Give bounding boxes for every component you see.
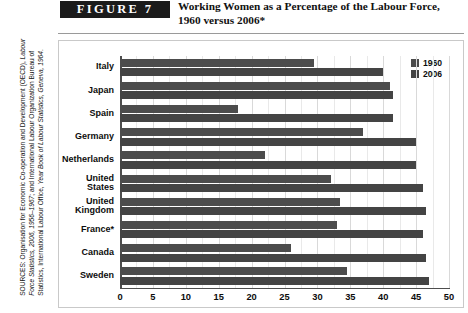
page-title: Working Women as a Percentage of the Lab… xyxy=(178,0,463,27)
category-label-line: Kingdom xyxy=(0,206,114,216)
bar-2006 xyxy=(120,91,393,99)
x-tick-label: 35 xyxy=(338,292,362,302)
category-label: France* xyxy=(0,225,114,235)
category-label: Sweden xyxy=(0,271,114,281)
plot-area: 05101520253035404550 xyxy=(120,56,450,288)
category-label-line: Sweden xyxy=(0,271,114,281)
bar-group xyxy=(120,198,450,218)
bar-group xyxy=(120,82,450,102)
x-tick-label: 5 xyxy=(141,292,165,302)
category-label-line: States xyxy=(0,183,114,193)
figure-number-banner: FIGURE 7 xyxy=(60,1,170,18)
category-label-line: Italy xyxy=(0,62,114,72)
x-tick-label: 40 xyxy=(371,292,395,302)
bar-1960 xyxy=(120,244,291,252)
x-tick-label: 30 xyxy=(305,292,329,302)
bar-1960 xyxy=(120,198,340,206)
bar-1960 xyxy=(120,267,347,275)
chart-container: 1960 2006 05101520253035404550 ItalyJapa… xyxy=(58,40,464,308)
bar-1960 xyxy=(120,221,337,229)
category-label: Germany xyxy=(0,132,114,142)
x-tick-label: 25 xyxy=(273,292,297,302)
figure-header: FIGURE 7 Working Women as a Percentage o… xyxy=(0,0,468,40)
category-label: Canada xyxy=(0,248,114,258)
bar-1960 xyxy=(120,128,363,136)
category-label-line: Spain xyxy=(0,109,114,119)
bar-group xyxy=(120,175,450,195)
sources-suffix: . xyxy=(38,49,45,51)
bar-group xyxy=(120,128,450,148)
bar-1960 xyxy=(120,59,314,67)
bar-1960 xyxy=(120,151,265,159)
figure-title-line-1: Working Women as a Percentage of the Lab… xyxy=(178,0,463,14)
category-label: UnitedKingdom xyxy=(0,197,114,216)
x-tick-label: 15 xyxy=(207,292,231,302)
x-axis-line xyxy=(120,288,450,290)
bar-2006 xyxy=(120,254,426,262)
bar-group xyxy=(120,221,450,241)
bar-2006 xyxy=(120,184,423,192)
figure-title-line-2: 1960 versus 2006* xyxy=(178,14,463,28)
x-tick-label: 20 xyxy=(240,292,264,302)
category-label: Japan xyxy=(0,86,114,96)
bar-2006 xyxy=(120,138,416,146)
bar-2006 xyxy=(120,230,423,238)
x-tick-label: 10 xyxy=(174,292,198,302)
category-label-line: Germany xyxy=(0,132,114,142)
bar-2006 xyxy=(120,68,383,76)
x-tick-label: 45 xyxy=(404,292,428,302)
bar-group xyxy=(120,59,450,79)
header-divider xyxy=(58,33,464,34)
category-label-line: France* xyxy=(0,225,114,235)
category-label-line: Netherlands xyxy=(0,155,114,165)
bar-1960 xyxy=(120,82,390,90)
category-label: Spain xyxy=(0,109,114,119)
bar-2006 xyxy=(120,277,429,285)
bar-2006 xyxy=(120,114,393,122)
category-label: Italy xyxy=(0,62,114,72)
bar-2006 xyxy=(120,207,426,215)
bar-1960 xyxy=(120,175,331,183)
category-label-line: Canada xyxy=(0,248,114,258)
bar-group xyxy=(120,244,450,264)
category-label-line: Japan xyxy=(0,86,114,96)
bar-group xyxy=(120,105,450,125)
bar-group xyxy=(120,267,450,287)
x-tick-label: 0 xyxy=(108,292,132,302)
category-label: Netherlands xyxy=(0,155,114,165)
bar-1960 xyxy=(120,105,238,113)
bar-2006 xyxy=(120,161,416,169)
bar-group xyxy=(120,151,450,171)
category-label: UnitedStates xyxy=(0,174,114,193)
x-tick-label: 50 xyxy=(437,292,461,302)
